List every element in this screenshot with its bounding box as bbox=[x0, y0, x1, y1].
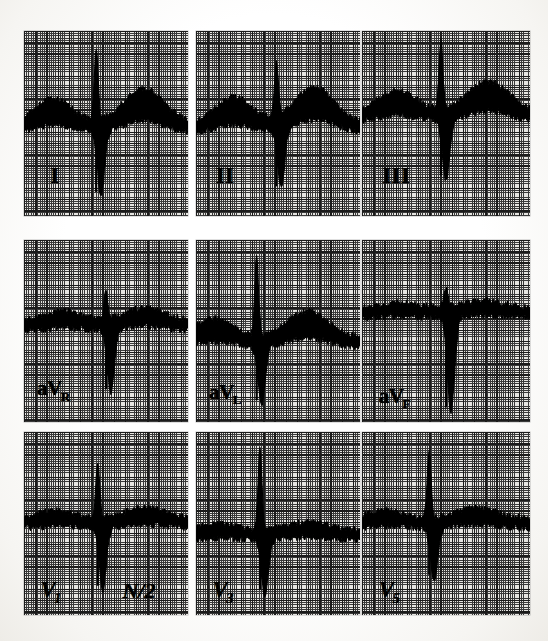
lead-label-subscript: 3 bbox=[226, 590, 233, 606]
lead-label-subscript: 5 bbox=[393, 590, 400, 606]
lead-label-text: V bbox=[212, 577, 227, 602]
ecg-panel-v1: V1N/2 bbox=[24, 432, 188, 615]
ecg-panel-v3: V3 bbox=[196, 432, 360, 615]
ecg-trace-ii bbox=[196, 31, 360, 216]
lead-label-text: V bbox=[40, 577, 55, 602]
lead-label-v1: V1 bbox=[40, 578, 60, 605]
lead-label-subscript: F bbox=[402, 396, 409, 411]
lead-label-avr: aVR bbox=[37, 378, 70, 402]
lead-label-subscript: 1 bbox=[54, 590, 61, 606]
ecg-panel-v5: V5 bbox=[362, 432, 530, 615]
lead-label-text: aV bbox=[37, 376, 62, 400]
lead-label-text: aV bbox=[379, 384, 404, 408]
lead-label-avl: aVL bbox=[209, 382, 241, 406]
lead-label-text: V bbox=[379, 577, 394, 602]
ecg-panel-i: I bbox=[24, 31, 188, 216]
lead-label-subscript: L bbox=[233, 392, 241, 407]
ecg-panel-grid: IIIIIIaVRaVLaVFV1N/2V3V5 bbox=[0, 0, 548, 641]
lead-label-text: III bbox=[382, 163, 410, 188]
gain-standardization-note: N/2 bbox=[122, 578, 155, 604]
ecg-panel-iii: III bbox=[362, 31, 530, 216]
lead-label-text: II bbox=[216, 163, 235, 188]
lead-label-text: I bbox=[50, 163, 59, 188]
lead-label-iii: III bbox=[382, 164, 410, 187]
ecg-panel-ii: II bbox=[196, 31, 360, 216]
lead-label-ii: II bbox=[216, 164, 235, 187]
lead-label-text: aV bbox=[209, 380, 234, 404]
ecg-panel-avf: aVF bbox=[362, 240, 530, 422]
ecg-panel-avr: aVR bbox=[24, 240, 188, 422]
lead-label-subscript: R bbox=[61, 389, 70, 404]
lead-label-avf: aVF bbox=[379, 386, 410, 410]
ecg-trace-iii bbox=[362, 31, 530, 216]
ecg-panel-avl: aVL bbox=[196, 240, 360, 422]
scanned-ecg-page: IIIIIIaVRaVLaVFV1N/2V3V5 bbox=[0, 0, 548, 641]
lead-label-v3: V3 bbox=[212, 578, 232, 605]
ecg-trace-i bbox=[24, 31, 188, 216]
lead-label-v5: V5 bbox=[379, 578, 399, 605]
lead-label-i: I bbox=[50, 164, 59, 187]
